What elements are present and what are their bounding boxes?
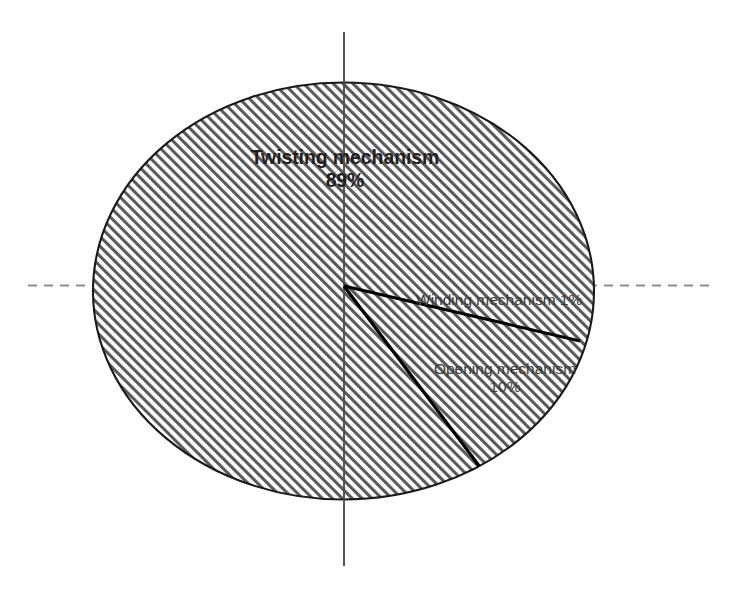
- pie-chart-figure: Twisting mechanism 89% Winding mechanism…: [0, 0, 740, 594]
- pie-chart-canvas: [0, 0, 740, 594]
